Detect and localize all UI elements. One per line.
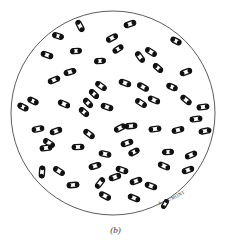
microscope-field-drawing: A. DUMONT (0, 0, 231, 246)
organism (148, 126, 161, 132)
organism (124, 123, 137, 129)
microscope-field-circle (11, 11, 215, 215)
organism (70, 48, 82, 54)
organism (66, 182, 79, 188)
figure-caption: (b) (0, 224, 231, 236)
organism (162, 149, 174, 154)
organism (196, 104, 209, 110)
organism (94, 58, 106, 64)
organism (39, 165, 45, 178)
organism (71, 144, 84, 149)
microscopy-figure-plate: A. DUMONT (b) (0, 0, 231, 246)
organism (39, 145, 52, 151)
